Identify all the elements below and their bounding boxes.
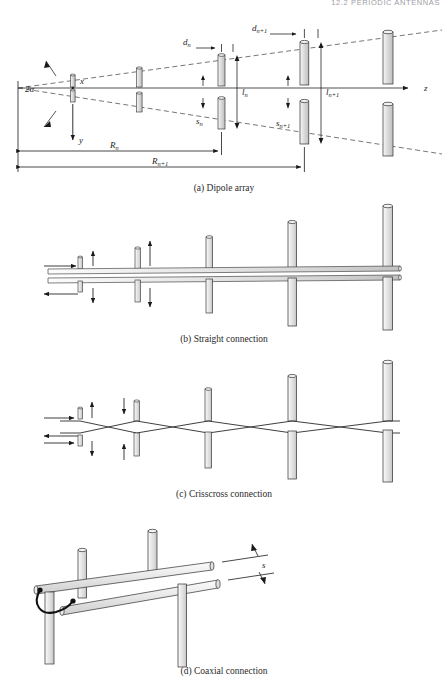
dimension-l-n bbox=[235, 55, 240, 129]
axis-label-x: x bbox=[79, 76, 84, 86]
feed-line-lower bbox=[48, 275, 401, 283]
dipole-element-2 bbox=[137, 67, 143, 112]
panel-coaxial-connection: s bbox=[0, 512, 448, 667]
running-head: 12.2 PERIODIC ANTENNAS bbox=[331, 0, 440, 7]
dipole-element-4 bbox=[300, 40, 309, 144]
dipole-mid-left-d bbox=[78, 548, 87, 598]
label-d-n: dn bbox=[183, 37, 191, 48]
panel-a-svg: z 2α bbox=[0, 14, 448, 184]
panel-c-svg bbox=[0, 356, 448, 482]
dimension-l-n1 bbox=[319, 42, 324, 144]
dipole-element-3 bbox=[218, 54, 225, 129]
figure-page: 12.2 PERIODIC ANTENNAS bbox=[0, 0, 448, 690]
crisscross-feed-lines bbox=[60, 421, 400, 433]
dipoles-lower-b bbox=[78, 277, 393, 330]
x-axis-marker bbox=[72, 87, 74, 89]
label-s-n1: sn+1 bbox=[276, 118, 290, 129]
axis-label-y: y bbox=[78, 135, 83, 145]
caption-panel-c: (c) Crisscross connection bbox=[0, 489, 448, 499]
label-s-n: sn bbox=[196, 116, 203, 127]
axis-label-z: z bbox=[423, 83, 428, 93]
dimension-s-n1 bbox=[286, 75, 290, 109]
dipoles-lower-c bbox=[78, 430, 393, 482]
panel-b-svg bbox=[0, 200, 448, 330]
dipole-front-left-d bbox=[45, 592, 54, 664]
dimension-R-n bbox=[18, 81, 222, 155]
label-l-n: ln bbox=[242, 87, 248, 98]
caption-panel-d: (d) Coaxial connection bbox=[0, 666, 448, 676]
dimension-s-boom bbox=[222, 544, 274, 584]
input-feed-arrows-c bbox=[44, 418, 78, 443]
label-R-n1: Rn+1 bbox=[151, 156, 168, 167]
label-R-n: Rn bbox=[109, 140, 119, 151]
apex-angle-label: 2α bbox=[25, 84, 35, 94]
caption-panel-b: (b) Straight connection bbox=[0, 334, 448, 344]
panel-d-svg: s bbox=[0, 512, 448, 667]
dipoles-upper-b bbox=[78, 204, 393, 269]
dipoles-upper-c bbox=[78, 360, 393, 421]
label-d-n1: dn+1 bbox=[252, 23, 267, 34]
dimension-d-n bbox=[196, 44, 233, 52]
label-s-boom: s bbox=[262, 560, 266, 570]
feed-line-upper bbox=[48, 266, 401, 274]
label-l-n1: ln+1 bbox=[326, 87, 339, 98]
dipole-element-5 bbox=[383, 30, 393, 156]
panel-crisscross-connection bbox=[0, 356, 448, 482]
caption-panel-a: (a) Dipole array bbox=[0, 183, 448, 193]
dimension-s-n bbox=[201, 75, 205, 109]
panel-dipole-array: z 2α bbox=[0, 14, 448, 184]
current-arrows-b bbox=[93, 241, 150, 307]
panel-straight-connection bbox=[0, 200, 448, 330]
dipole-front-right-d bbox=[178, 584, 187, 667]
dimension-d-n1 bbox=[270, 29, 318, 38]
